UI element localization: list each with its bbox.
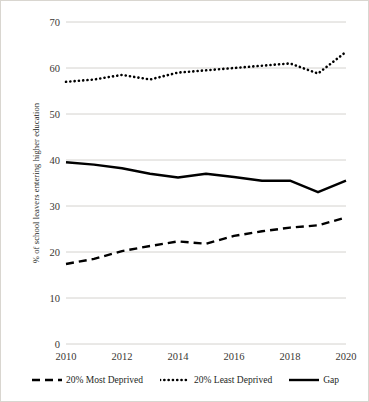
legend-item[interactable]: Gap [289,375,339,385]
series-lines [66,52,346,264]
x-tick-label: 2020 [324,351,368,362]
y-axis-title: % of school leavers entering higher educ… [27,22,45,344]
series-line-gap [66,162,346,192]
legend-swatch-dotted-icon [160,375,190,385]
chart-legend: 20% Most Deprived20% Least DeprivedGap [1,375,369,385]
legend-label: 20% Most Deprived [66,375,143,385]
x-tick-label: 2018 [268,351,312,362]
x-tick-label: 2012 [100,351,144,362]
x-tick-label: 2010 [44,351,88,362]
x-axis-tick-labels: 201020122014201620182020 [1,351,369,367]
legend-swatch-dashed-icon [32,375,62,385]
chart-figure: 010203040506070 % of school leavers ente… [0,0,369,402]
plot-area [66,22,346,344]
legend-label: 20% Least Deprived [194,375,272,385]
x-tick-label: 2016 [212,351,256,362]
plot-svg [66,22,346,344]
x-tick-label: 2014 [156,351,200,362]
series-line-20-least-deprived [66,52,346,82]
legend-swatch-solid-icon [289,375,319,385]
legend-item[interactable]: 20% Least Deprived [160,375,272,385]
series-line-20-most-deprived [66,218,346,264]
legend-label: Gap [323,375,339,385]
legend-item[interactable]: 20% Most Deprived [32,375,143,385]
